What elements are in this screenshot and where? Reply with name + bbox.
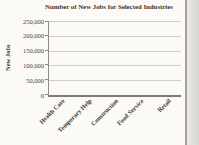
axis-tick <box>45 50 49 51</box>
page-background: { "chart_data": { "type": "bar", "title"… <box>0 0 199 145</box>
chart-title: Number of New Jobs for Selected Industri… <box>33 3 185 11</box>
x-category-label: Construction <box>89 97 119 127</box>
gridline <box>49 21 181 22</box>
axis-tick <box>45 35 49 36</box>
y-tick-label: 250,000 <box>23 18 44 25</box>
y-tick-label: 200,000 <box>23 32 44 39</box>
axis-tick <box>45 94 49 95</box>
gridline <box>49 80 181 81</box>
plot-area <box>48 21 181 97</box>
x-category-label: Retail <box>156 97 172 113</box>
y-tick-label: 150,000 <box>23 47 44 54</box>
y-axis-tick-labels: 250,000 200,000 150,000 100,000 50,000 0 <box>0 21 46 95</box>
x-category-label: Health Care <box>38 97 66 125</box>
gridline <box>49 36 181 37</box>
axis-tick <box>45 79 49 80</box>
x-category-label: Food Service <box>115 97 145 127</box>
axis-tick <box>45 64 49 65</box>
y-tick-label: 100,000 <box>23 62 44 69</box>
bar-chart: Number of New Jobs for Selected Industri… <box>0 0 199 145</box>
axis-tick <box>45 21 49 22</box>
page-edge-shadow <box>187 0 199 145</box>
gridline <box>49 65 181 66</box>
gridline <box>49 51 181 52</box>
y-tick-label: 0 <box>41 92 44 99</box>
y-tick-label: 50,000 <box>26 77 44 84</box>
